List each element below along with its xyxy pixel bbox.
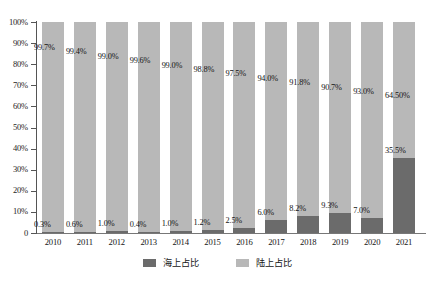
data-label-onshore: 97.5% bbox=[225, 70, 246, 78]
bar-group[interactable] bbox=[170, 22, 192, 233]
y-axis-tick-label: 80% bbox=[0, 60, 28, 69]
plot-area: 0.3%99.7%0.6%99.4%1.0%99.0%0.4%99.6%1.0%… bbox=[37, 22, 420, 233]
x-axis-tick-label: 2021 bbox=[384, 238, 424, 247]
bar-segment-offshore[interactable] bbox=[170, 231, 192, 233]
bar-segment-offshore[interactable] bbox=[233, 228, 255, 233]
bar-segment-offshore[interactable] bbox=[202, 230, 224, 233]
bar-group[interactable] bbox=[265, 22, 287, 233]
data-label-offshore: 1.0% bbox=[98, 220, 115, 228]
data-label-offshore: 7.0% bbox=[353, 207, 370, 215]
bar-segment-onshore[interactable] bbox=[138, 22, 160, 232]
data-label-onshore: 93.0% bbox=[353, 88, 374, 96]
y-axis-tick-label: 50% bbox=[0, 123, 28, 132]
bar-segment-onshore[interactable] bbox=[202, 22, 224, 230]
y-axis-tick-label: 0 bbox=[0, 229, 28, 238]
bar-segment-onshore[interactable] bbox=[233, 22, 255, 228]
legend-label: 海上占比 bbox=[163, 258, 200, 268]
bar-group[interactable] bbox=[361, 22, 383, 233]
bar-segment-onshore[interactable] bbox=[42, 22, 64, 232]
bar-group[interactable] bbox=[42, 22, 64, 233]
data-label-onshore: 99.6% bbox=[130, 57, 151, 65]
data-label-offshore: 0.6% bbox=[66, 221, 83, 229]
legend-item[interactable]: 陆上占比 bbox=[236, 258, 293, 268]
y-axis-tick-label: 100% bbox=[0, 18, 28, 27]
bar-segment-offshore[interactable] bbox=[74, 232, 96, 233]
bar-segment-offshore[interactable] bbox=[393, 158, 415, 233]
bar-segment-offshore[interactable] bbox=[265, 220, 287, 233]
data-label-onshore: 64.50% bbox=[385, 92, 410, 100]
bar-group[interactable] bbox=[233, 22, 255, 233]
bar-group[interactable] bbox=[393, 22, 415, 233]
y-axis-tick-label: 30% bbox=[0, 165, 28, 174]
bar-group[interactable] bbox=[202, 22, 224, 233]
x-axis-line bbox=[36, 233, 426, 234]
data-label-onshore: 99.0% bbox=[98, 53, 119, 61]
y-axis-tick-label: 60% bbox=[0, 102, 28, 111]
legend-swatch-icon bbox=[236, 259, 249, 267]
y-axis-tick-label: 40% bbox=[0, 144, 28, 153]
y-axis-tick-label: 70% bbox=[0, 81, 28, 90]
bar-group[interactable] bbox=[297, 22, 319, 233]
data-label-onshore: 94.0% bbox=[257, 75, 278, 83]
data-label-onshore: 99.7% bbox=[34, 44, 55, 52]
legend-swatch-icon bbox=[143, 259, 156, 267]
y-axis-tick-label: 90% bbox=[0, 39, 28, 48]
bar-segment-offshore[interactable] bbox=[42, 232, 64, 233]
bar-segment-offshore[interactable] bbox=[361, 218, 383, 233]
bar-segment-offshore[interactable] bbox=[329, 213, 351, 233]
data-label-offshore: 6.0% bbox=[257, 209, 274, 217]
data-label-offshore: 0.4% bbox=[130, 221, 147, 229]
bar-segment-onshore[interactable] bbox=[361, 22, 383, 218]
bar-segment-onshore[interactable] bbox=[329, 22, 351, 213]
bar-segment-offshore[interactable] bbox=[106, 231, 128, 233]
data-label-offshore: 1.2% bbox=[194, 219, 211, 227]
data-label-onshore: 99.0% bbox=[162, 62, 183, 70]
bar-segment-onshore[interactable] bbox=[170, 22, 192, 231]
bar-segment-offshore[interactable] bbox=[138, 232, 160, 233]
bar-segment-offshore[interactable] bbox=[297, 216, 319, 233]
legend-item[interactable]: 海上占比 bbox=[143, 258, 200, 268]
bar-segment-onshore[interactable] bbox=[393, 22, 415, 158]
y-axis-tick-label: 10% bbox=[0, 207, 28, 216]
bar-segment-onshore[interactable] bbox=[297, 22, 319, 216]
y-axis-tick bbox=[31, 233, 37, 234]
data-label-offshore: 9.3% bbox=[321, 202, 338, 210]
legend-label: 陆上占比 bbox=[256, 258, 293, 268]
data-label-offshore: 2.5% bbox=[225, 217, 242, 225]
data-label-offshore: 35.5% bbox=[385, 147, 406, 155]
data-label-offshore: 8.2% bbox=[289, 205, 306, 213]
data-label-onshore: 90.7% bbox=[321, 84, 342, 92]
y-axis-tick-label: 20% bbox=[0, 186, 28, 195]
stacked-bar-chart: 010%20%30%40%50%60%70%80%90%100% 0.3%99.… bbox=[0, 0, 435, 283]
data-label-onshore: 91.8% bbox=[289, 79, 310, 87]
data-label-offshore: 0.3% bbox=[34, 221, 51, 229]
data-label-onshore: 98.8% bbox=[194, 66, 215, 74]
chart-legend: 海上占比陆上占比 bbox=[0, 258, 435, 268]
data-label-onshore: 99.4% bbox=[66, 48, 87, 56]
bar-group[interactable] bbox=[138, 22, 160, 233]
bar-segment-onshore[interactable] bbox=[265, 22, 287, 220]
data-label-offshore: 1.0% bbox=[162, 220, 179, 228]
